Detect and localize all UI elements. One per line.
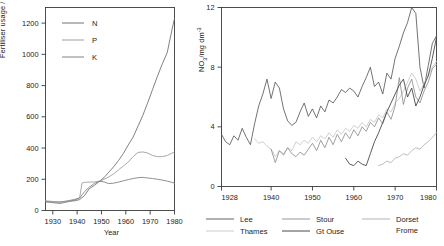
left-y-tick-label: 1000	[22, 50, 38, 59]
right-series-line-dorset-frome	[379, 133, 437, 166]
right-y-axis-label-superscript: -3	[196, 27, 202, 32]
right-plot-area: 04812192819401950196019701980 LeeThamesS…	[196, 0, 444, 246]
right-y-axis-label-subscript: 3	[202, 58, 208, 61]
left-x-tick-label: 1980	[166, 217, 182, 226]
left-plot-frame	[46, 8, 175, 211]
right-x-tick-label: 1928	[222, 193, 238, 202]
right-series-line-thames	[255, 61, 437, 156]
right-y-tick-label: 4	[210, 122, 214, 131]
right-y-tick-label: 8	[210, 63, 214, 72]
left-series-line-k	[46, 177, 175, 203]
fertiliser-usage-chart: Fertiliser usage / kt 020040060080010001…	[0, 0, 196, 246]
left-x-tick-label: 1930	[45, 217, 61, 226]
left-series-line-p	[46, 152, 175, 202]
right-y-axis-label-no: NO	[197, 61, 206, 72]
left-legend: NPK	[62, 19, 97, 62]
right-y-tick-label: 0	[210, 182, 214, 191]
left-x-axis-label: Year	[104, 228, 119, 237]
right-legend: LeeThamesStourGt OuseDorsetFrome	[206, 215, 419, 236]
left-legend-label-p: P	[92, 36, 97, 45]
figure-root: Fertiliser usage / kt 020040060080010001…	[0, 0, 444, 246]
right-plot-frame	[222, 8, 437, 187]
right-legend-label-stour: Stour	[316, 215, 335, 224]
right-x-tick-label: 1970	[387, 193, 403, 202]
left-x-tick-label: 1950	[93, 217, 109, 226]
right-legend-label-dorset-frome-line1: Dorset	[396, 215, 419, 224]
left-legend-label-k: K	[92, 53, 97, 62]
left-y-axis-label: Fertiliser usage / kt	[0, 0, 7, 58]
left-axis-ticks: 0200400600800100012001930194019501960197…	[22, 19, 183, 226]
left-y-tick-label: 1200	[22, 19, 38, 28]
right-legend-label-gt-ouse: Gt Ouse	[316, 227, 344, 236]
nitrate-concentration-chart: 04812192819401950196019701980 LeeThamesS…	[196, 0, 444, 246]
left-plot-area: 0200400600800100012001930194019501960197…	[0, 0, 196, 246]
right-legend-label-thames: Thames	[240, 227, 268, 236]
right-axis-ticks: 04812192819401950196019701980	[206, 3, 436, 201]
left-series-group	[46, 18, 175, 203]
right-legend-label-lee: Lee	[240, 215, 253, 224]
left-x-tick-label: 1940	[69, 217, 85, 226]
right-legend-label-dorset-frome-line2: Frome	[396, 226, 418, 235]
left-x-tick-label: 1970	[142, 217, 158, 226]
left-y-tick-label: 400	[26, 144, 38, 153]
left-y-tick-label: 800	[26, 81, 38, 90]
right-x-tick-label: 1980	[420, 193, 436, 202]
right-y-axis-label-units: /mg dm	[197, 32, 206, 57]
right-series-group	[222, 8, 437, 166]
right-x-tick-label: 1950	[304, 193, 320, 202]
left-legend-label-n: N	[92, 19, 97, 28]
right-x-tick-label: 1960	[346, 193, 362, 202]
left-x-tick-label: 1960	[118, 217, 134, 226]
left-y-tick-label: 600	[26, 112, 38, 121]
left-y-tick-label: 200	[26, 175, 38, 184]
left-series-line-n	[46, 18, 175, 201]
right-x-tick-label: 1940	[263, 193, 279, 202]
right-series-line-lee	[222, 8, 437, 145]
left-y-tick-label: 0	[34, 206, 38, 215]
right-series-line-stour	[271, 64, 436, 162]
right-y-axis-label: NO3/mg dm-3	[196, 0, 208, 72]
